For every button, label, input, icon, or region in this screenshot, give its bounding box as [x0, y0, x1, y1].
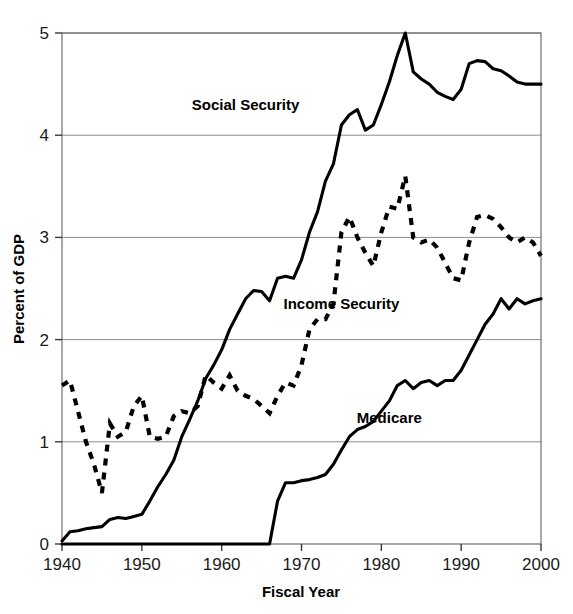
x-tick-label-1980: 1980 [362, 555, 400, 574]
x-tick-label-1970: 1970 [283, 555, 321, 574]
x-tick-label-1950: 1950 [123, 555, 161, 574]
y-tick-label-4: 4 [40, 126, 49, 145]
chart-figure: 1940195019601970198019902000 012345 Soci… [0, 0, 573, 614]
series-label-income-security: Income Security [283, 295, 400, 312]
series-label-social-security: Social Security [192, 96, 300, 113]
y-tick-label-5: 5 [40, 24, 49, 43]
series-label-medicare: Medicare [357, 409, 422, 426]
y-tick-label-0: 0 [40, 535, 49, 554]
y-tick-label-1: 1 [40, 433, 49, 452]
y-tick-label-3: 3 [40, 228, 49, 247]
y-axis-title: Percent of GDP [10, 234, 27, 344]
x-tick-label-2000: 2000 [522, 555, 560, 574]
x-tick-label-1940: 1940 [43, 555, 81, 574]
y-tick-label-2: 2 [40, 331, 49, 350]
x-axis-title: Fiscal Year [262, 583, 340, 600]
x-tick-label-1960: 1960 [203, 555, 241, 574]
x-tick-label-1990: 1990 [442, 555, 480, 574]
